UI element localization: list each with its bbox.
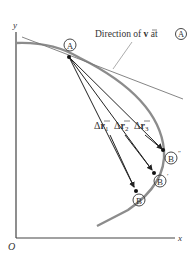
motion-diagram: A B B ′ B ″ Δr1 Δr2 Δr3 Direction of v a… [0, 0, 194, 258]
y-axis-label: y [12, 20, 17, 30]
svg-text:B: B [157, 177, 163, 187]
label-delta-r3: Δr3 [134, 120, 150, 133]
svg-text:B: B [136, 196, 142, 206]
label-point-a: A [64, 39, 76, 51]
svg-text:Direction of v at: Direction of v at [95, 29, 158, 39]
point-b-dprime-dot [161, 148, 165, 152]
origin-label: O [8, 241, 15, 252]
svg-text:Δr2: Δr2 [114, 120, 129, 133]
svg-text:A: A [178, 29, 185, 39]
delta-r2-arrow-lower [125, 135, 152, 170]
svg-text:′: ′ [167, 172, 169, 180]
x-axis-label: x [177, 233, 182, 243]
label-delta-r1: Δr1 [94, 120, 110, 133]
point-a-dot [67, 55, 71, 59]
point-b-dot [134, 189, 138, 193]
svg-text:B: B [168, 154, 174, 164]
point-b-prime-dot [152, 171, 156, 175]
annotation-direction-of-v: Direction of v at A [95, 29, 187, 40]
label-point-b-prime: B ′ [154, 172, 169, 187]
label-point-b-double-prime: B ″ [165, 149, 181, 164]
label-point-b: B [133, 194, 145, 206]
svg-text:A: A [67, 41, 74, 51]
annotation-leader [113, 42, 132, 69]
svg-text:Δr3: Δr3 [134, 120, 149, 133]
delta-r3-arrow [69, 57, 162, 149]
delta-r3-arrow-lower [145, 135, 162, 149]
label-delta-r2: Δr2 [114, 120, 130, 133]
svg-text:″: ″ [178, 149, 181, 157]
svg-text:Δr1: Δr1 [94, 120, 109, 133]
